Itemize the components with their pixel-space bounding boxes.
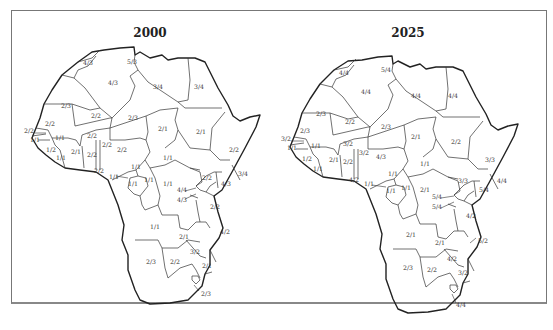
region-label: 1/1 <box>56 154 66 161</box>
region-label: 2/1 <box>179 233 189 240</box>
region-label: 3/2 <box>190 248 200 255</box>
region-label: 5/4 <box>432 193 442 200</box>
region-label: 4/3 <box>376 153 386 160</box>
map-title-2025: 2025 <box>391 26 424 40</box>
region-label: 2/3 <box>316 110 326 117</box>
region-label: 2/2 <box>87 132 97 139</box>
region-label: 3/2 <box>359 149 369 156</box>
region-label: 2/1 <box>329 156 339 163</box>
region-label: 3/3 <box>458 177 468 184</box>
region-label: 1/2 <box>46 146 56 153</box>
region-label: 4/2 <box>447 255 457 262</box>
region-label: 1/1 <box>364 180 374 187</box>
region-label: 2/3 <box>201 290 211 297</box>
region-label: 3/3 <box>485 156 495 163</box>
region-label: 2/2 <box>24 127 34 134</box>
region-label: 5/3 <box>127 58 137 65</box>
region-label: 3/2 <box>281 135 291 142</box>
region-label: 1/1 <box>55 134 65 141</box>
labels-2000: 4/3 5/3 4/3 3/4 3/4 2/3 2/2 2/3 2/1 2/1 … <box>24 58 248 297</box>
region-label: 2/3 <box>300 127 310 134</box>
region-label: 1/1 <box>401 184 411 191</box>
region-label: 5/2 <box>478 237 488 244</box>
region-label: 2/1 <box>435 239 445 246</box>
region-label: 4/4 <box>411 92 421 99</box>
region-label: 1/1 <box>128 180 138 187</box>
region-label: 2/2 <box>91 112 101 119</box>
region-label: 2/1 <box>71 148 81 155</box>
africa-maps: 2000 <box>0 0 553 330</box>
region-label: 2/2 <box>427 266 437 273</box>
region-label: 2/1 <box>406 231 416 238</box>
region-label: 4/4 <box>456 301 466 308</box>
region-label: 4/3 <box>83 59 93 66</box>
region-label: 2/3 <box>128 114 138 121</box>
region-label: 3/2 <box>458 269 468 276</box>
region-label: 2/2 <box>170 258 180 265</box>
region-label: 4/3 <box>108 79 118 86</box>
region-label: 1/1 <box>144 176 154 183</box>
region-label: 1/1 <box>287 144 297 151</box>
region-label: 2/2 <box>343 158 353 165</box>
region-label: 1/1 <box>150 223 160 230</box>
region-label: 2/1 <box>158 125 168 132</box>
region-label: 1/1 <box>386 187 396 194</box>
region-label: 2/1 <box>196 128 206 135</box>
region-label: 4/4 <box>339 69 349 76</box>
region-label: 2/3 <box>381 123 391 130</box>
region-label: 1/2 <box>302 155 312 162</box>
region-label: 4/3 <box>177 196 187 203</box>
region-label: 5/4 <box>479 186 489 193</box>
region-label: 2/2 <box>451 138 461 145</box>
region-label: 4/2 <box>466 212 476 219</box>
map-title-2000: 2000 <box>133 26 166 40</box>
region-label: 4/4 <box>177 186 187 193</box>
region-label: 3/4 <box>153 83 163 90</box>
region-label: 1/1 <box>313 165 323 172</box>
region-label: 4/2 <box>349 176 359 183</box>
region-label: 2/2 <box>45 120 55 127</box>
region-label: 2/2 <box>87 151 97 158</box>
region-label: 4/4 <box>497 177 507 184</box>
region-label: 2/1 <box>411 133 421 140</box>
region-label: 1/1 <box>131 163 141 170</box>
region-label: 1/1 <box>311 142 321 149</box>
region-label: 2/2 <box>345 118 355 125</box>
region-label: 1/1 <box>30 136 40 143</box>
region-label: 1/1 <box>163 180 173 187</box>
region-label: 3/4 <box>238 170 248 177</box>
region-label: 2/2 <box>210 203 220 210</box>
region-label: 1/1 <box>109 173 119 180</box>
region-label: 2/2 <box>117 146 127 153</box>
region-label: 3/2 <box>343 140 353 147</box>
region-label: 4/3 <box>221 180 231 187</box>
region-label: 1/1 <box>388 170 398 177</box>
region-label: 4/2 <box>220 228 230 235</box>
region-label: 2/3 <box>61 102 71 109</box>
region-label: 1/1 <box>420 160 430 167</box>
region-label: 1/1 <box>163 154 173 161</box>
map-2025: 2025 <box>281 26 518 313</box>
map-2000: 2000 <box>24 26 260 304</box>
labels-2025: 4/4 5/4 4/4 4/4 4/4 2/3 2/2 2/3 2/1 2/2 … <box>281 66 507 308</box>
region-label: 2/2 <box>229 146 239 153</box>
region-label: 2/3 <box>146 258 156 265</box>
region-label: 5/4 <box>432 203 442 210</box>
region-label: 5/4 <box>381 66 391 73</box>
region-label: 2/2 <box>202 174 212 181</box>
region-label: 2/1 <box>420 186 430 193</box>
region-label: 2/2 <box>102 141 112 148</box>
region-label: 4/4 <box>361 88 371 95</box>
region-label: 2/3 <box>403 264 413 271</box>
region-label: 2/1 <box>202 262 212 269</box>
region-label: 4/4 <box>448 92 458 99</box>
region-label: 2/2 <box>94 167 104 174</box>
region-label: 3/4 <box>194 83 204 90</box>
